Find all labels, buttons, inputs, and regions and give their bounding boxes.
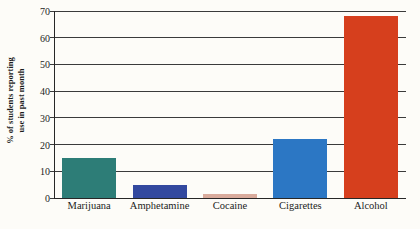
x-tick-label-amphetamine: Amphetamine [130,200,189,211]
y-tick-mark-30 [50,117,54,118]
x-tick-label-marijuana: Marijuana [68,200,111,211]
bar-marijuana [62,158,116,198]
y-tick-mark-20 [50,144,54,145]
bar-amphetamine [133,185,187,198]
bar-chart-figure: % of students reporting use in past mont… [0,0,420,229]
y-tick-mark-40 [50,91,54,92]
y-tick-label-0: 0 [26,193,50,204]
bar-series [54,11,406,198]
y-tick-label-10: 10 [26,166,50,177]
x-tick-label-alcohol: Alcohol [354,200,388,211]
x-tick-label-cigarettes: Cigarettes [279,200,322,211]
y-tick-mark-0 [50,198,54,199]
y-axis-title-line-1: % of students reporting [5,57,16,144]
y-tick-mark-50 [50,64,54,65]
y-tick-mark-70 [50,11,54,12]
y-tick-label-60: 60 [26,32,50,43]
x-tick-label-cocaine: Cocaine [213,200,247,211]
y-tick-label-30: 30 [26,112,50,123]
y-tick-label-50: 50 [26,59,50,70]
y-tick-mark-60 [50,37,54,38]
plot-area [54,11,406,198]
y-tick-label-20: 20 [26,139,50,150]
bar-cocaine [203,194,257,198]
bar-cigarettes [273,139,327,198]
y-tick-label-40: 40 [26,86,50,97]
y-tick-mark-10 [50,171,54,172]
y-tick-label-70: 70 [26,6,50,17]
y-axis-tick-labels: 010203040506070 [26,11,50,198]
y-axis-title-line-2: use in past month [15,57,26,144]
bar-alcohol [344,16,398,198]
x-axis-tick-labels: MarijuanaAmphetamineCocaineCigarettesAlc… [54,200,406,220]
